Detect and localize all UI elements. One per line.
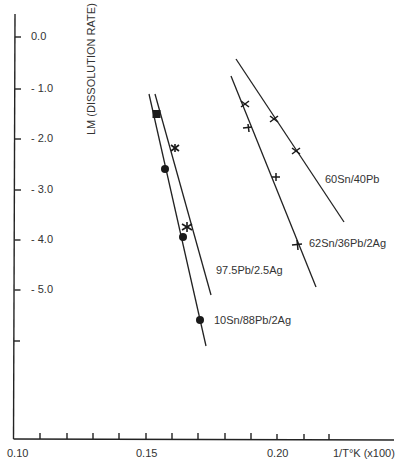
x-axis: [14, 433, 395, 440]
fit-line-62sn: [231, 76, 316, 287]
series-label-97-5pb: 97.5Pb/2.5Ag: [216, 264, 283, 276]
x-axis-title: 1/T°K (x100): [333, 447, 395, 459]
y-tick-label: - 5.0: [31, 283, 53, 295]
x-tick-label: 0.15: [136, 447, 157, 459]
data-point: [179, 233, 187, 241]
y-tick-label: - 4.0: [31, 233, 53, 245]
fit-line-60sn: [236, 59, 344, 222]
chart-canvas: [0, 0, 406, 471]
fit-line-97-5pb: [155, 94, 211, 295]
series-label-10sn: 10Sn/88Pb/2Ag: [214, 314, 291, 326]
y-tick-label: 0.0: [31, 30, 46, 42]
y-axis: [14, 14, 22, 439]
series-label-60sn: 60Sn/40Pb: [325, 173, 379, 185]
series-label-62sn: 62Sn/36Pb/2Ag: [309, 237, 386, 249]
shared-data-point: [153, 111, 160, 118]
data-point: [196, 316, 204, 324]
star-marker-icon: [171, 144, 179, 152]
fit-line-10sn: [149, 94, 206, 346]
x-tick-label: 0.20: [267, 447, 288, 459]
y-tick-label: - 1.0: [31, 82, 53, 94]
y-axis-title: LM (DISSOLUTION RATE): [85, 35, 97, 135]
y-tick-label: - 3.0: [31, 183, 53, 195]
x-tick-label: 0.10: [7, 447, 28, 459]
y-tick-label: - 2.0: [31, 132, 53, 144]
data-point: [161, 165, 169, 173]
